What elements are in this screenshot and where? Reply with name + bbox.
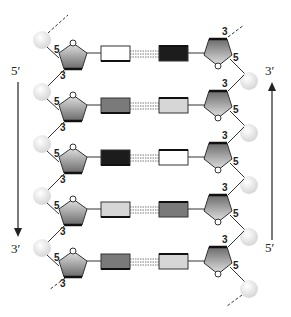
base-left	[101, 150, 130, 165]
strand-continuation	[228, 25, 244, 37]
carbon-5-label: 5	[233, 260, 239, 271]
base-left	[101, 98, 130, 113]
strand-continuation	[48, 15, 68, 33]
base-right	[159, 98, 188, 113]
ring-oxygen	[215, 63, 221, 69]
deoxyribose-sugar	[59, 43, 87, 69]
strand-continuation	[227, 295, 242, 306]
base-left	[101, 202, 130, 217]
deoxyribose-sugar	[59, 199, 87, 225]
ring-oxygen	[70, 248, 76, 254]
left-bottom-label: 3′	[11, 241, 21, 256]
dna-diagram: 53355335533553355335 5′ 3′ 3′ 5′	[0, 0, 291, 317]
ring-oxygen	[215, 167, 221, 173]
base-right	[159, 46, 188, 61]
base-left	[101, 254, 130, 269]
phosphate-group	[33, 135, 51, 153]
deoxyribose-sugar	[204, 247, 232, 274]
carbon-5-label: 5	[233, 156, 239, 167]
carbon-3-label: 3	[222, 234, 228, 245]
carbon-5-label: 5	[233, 104, 239, 115]
ring-oxygen	[215, 115, 221, 121]
deoxyribose-sugar	[59, 147, 87, 173]
right-bottom-label: 5′	[265, 240, 275, 255]
carbon-3-label: 3	[222, 26, 228, 37]
deoxyribose-sugar	[204, 195, 232, 222]
right-direction-arrow: 3′ 5′	[265, 63, 276, 255]
deoxyribose-sugar	[59, 251, 87, 277]
phosphate-group	[240, 124, 258, 142]
phosphate-group	[33, 239, 51, 257]
carbon-3-label: 3	[222, 182, 228, 193]
left-top-label: 5′	[11, 63, 21, 78]
phosphate-group	[33, 187, 51, 205]
base-right	[159, 150, 188, 165]
ring-oxygen	[70, 92, 76, 98]
ring-oxygen	[215, 271, 221, 277]
base-pair-row: 5335	[33, 234, 258, 306]
carbon-3-label: 3	[222, 78, 228, 89]
base-right	[159, 254, 188, 269]
base-right	[159, 202, 188, 217]
right-top-label: 3′	[265, 63, 275, 78]
carbon-5-label: 5	[233, 208, 239, 219]
phosphate-group	[33, 31, 51, 49]
left-direction-arrow: 5′ 3′	[11, 63, 22, 256]
ring-oxygen	[70, 144, 76, 150]
carbon-5-label: 5	[233, 52, 239, 63]
carbon-3-label: 3	[222, 130, 228, 141]
deoxyribose-sugar	[204, 39, 232, 66]
ring-oxygen	[70, 196, 76, 202]
ring-oxygen	[215, 219, 221, 225]
deoxyribose-sugar	[59, 95, 87, 121]
phosphate-group	[240, 176, 258, 194]
deoxyribose-sugar	[204, 143, 232, 170]
base-left	[101, 46, 130, 61]
ring-oxygen	[70, 40, 76, 46]
phosphate-group	[240, 228, 258, 246]
phosphate-group	[33, 83, 51, 101]
phosphate-group	[240, 280, 258, 298]
phosphate-group	[240, 72, 258, 90]
deoxyribose-sugar	[204, 91, 232, 118]
